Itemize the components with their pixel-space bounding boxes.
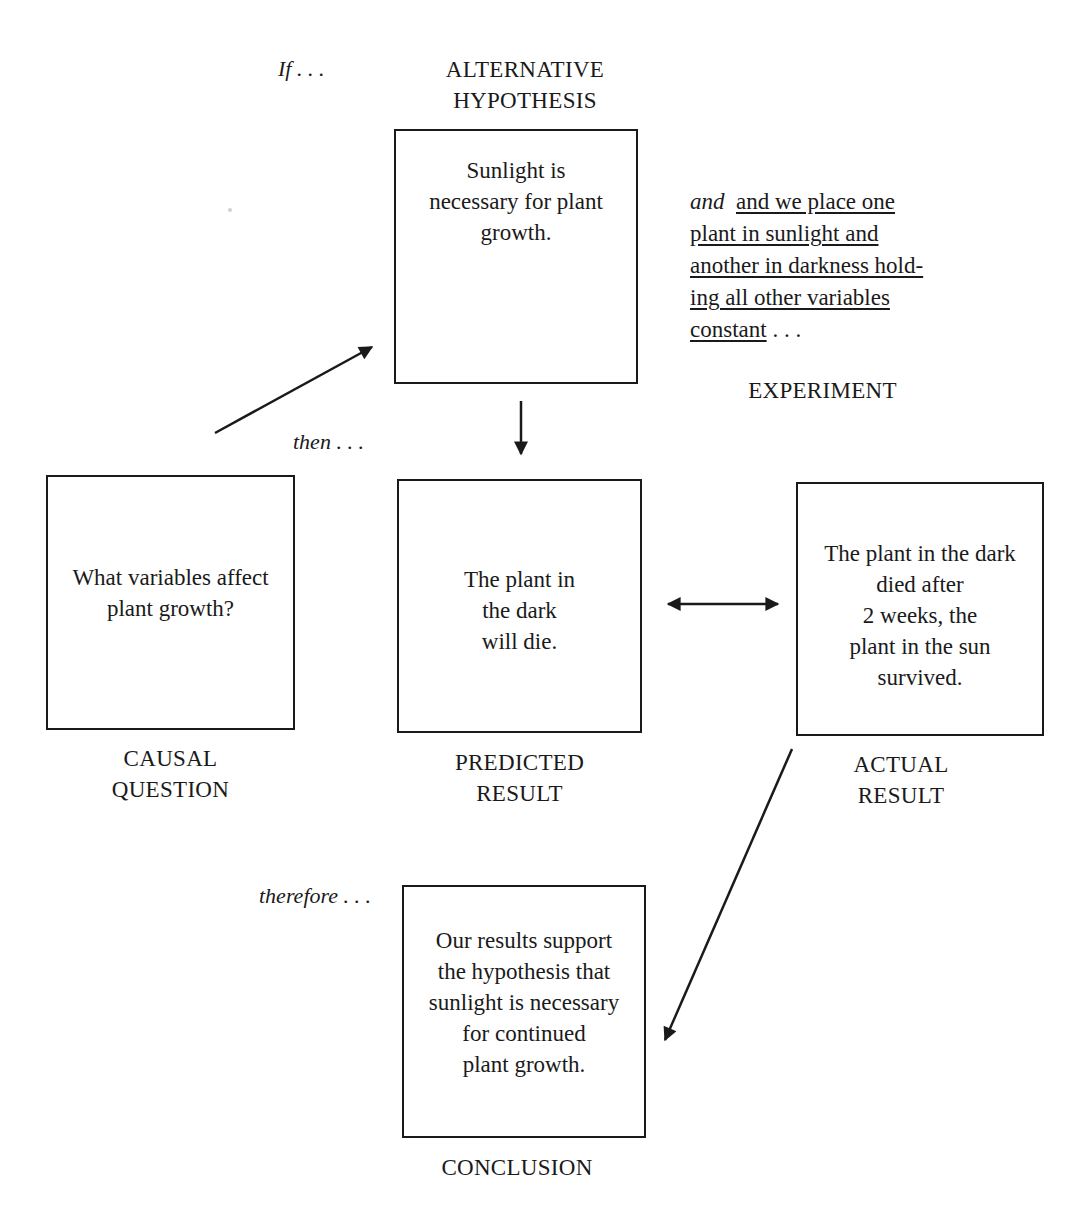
text-line: The plant in the dark <box>798 538 1042 569</box>
arrow-question-to-hypothesis <box>215 347 372 433</box>
text-line: for continued <box>404 1018 644 1049</box>
node-hypothesis: Sunlight is necessary for plant growth. <box>394 129 638 384</box>
text-line: What variables affect <box>48 562 293 593</box>
connector-if: If . . . <box>278 56 324 82</box>
text-line: plant growth? <box>48 593 293 624</box>
caption-hypothesis: ALTERNATIVE HYPOTHESIS <box>380 54 670 116</box>
exp-line: constant . . . <box>690 314 990 346</box>
caption-actual-result: ACTUAL RESULT <box>796 749 1006 811</box>
caption-line: RESULT <box>796 780 1006 811</box>
text-line: Our results support <box>404 925 644 956</box>
exp-line-text: plant in sunlight and <box>690 221 878 246</box>
node-predicted-result: The plant in the dark will die. <box>397 479 642 733</box>
node-text: The plant in the dark died after 2 weeks… <box>798 538 1042 693</box>
caption-line: ALTERNATIVE <box>380 54 670 85</box>
node-text: Our results support the hypothesis that … <box>404 925 644 1080</box>
text-line: 2 weeks, the <box>798 600 1042 631</box>
experiment-text: and and we place one plant in sunlight a… <box>690 186 990 346</box>
exp-line: another in darkness hold- <box>690 250 990 282</box>
caption-causal-question: CAUSAL QUESTION <box>46 743 295 805</box>
node-actual-result: The plant in the dark died after 2 weeks… <box>796 482 1044 736</box>
text-line: sunlight is necessary <box>404 987 644 1018</box>
text-line: the hypothesis that <box>404 956 644 987</box>
node-text: Sunlight is necessary for plant growth. <box>396 155 636 248</box>
exp-line: ing all other variables <box>690 282 990 314</box>
speck <box>228 208 232 212</box>
exp-line-text: ing all other variables <box>690 285 890 310</box>
text-line: plant growth. <box>404 1049 644 1080</box>
text-line: plant in the sun <box>798 631 1042 662</box>
caption-line: QUESTION <box>46 774 295 805</box>
connector-and: and <box>690 189 725 214</box>
connector-therefore: therefore . . . <box>259 883 371 909</box>
caption-line: PREDICTED <box>397 747 642 778</box>
node-text: The plant in the dark will die. <box>399 564 640 657</box>
node-causal-question: What variables affect plant growth? <box>46 475 295 730</box>
text-line: died after <box>798 569 1042 600</box>
arrow-actual-to-conclusion <box>665 749 792 1040</box>
text-line: survived. <box>798 662 1042 693</box>
exp-ellipsis: . . . <box>772 317 801 342</box>
text-line: The plant in <box>399 564 640 595</box>
text-line: the dark <box>399 595 640 626</box>
caption-line: CAUSAL <box>46 743 295 774</box>
text-line: Sunlight is <box>396 155 636 186</box>
exp-line: and and we place one <box>690 186 990 218</box>
node-text: What variables affect plant growth? <box>48 562 293 624</box>
caption-line: HYPOTHESIS <box>380 85 670 116</box>
exp-line-text: another in darkness hold- <box>690 253 923 278</box>
text-line: growth. <box>396 217 636 248</box>
caption-line: ACTUAL <box>796 749 1006 780</box>
connector-then: then . . . <box>293 429 364 455</box>
caption-experiment: EXPERIMENT <box>720 375 925 406</box>
node-conclusion: Our results support the hypothesis that … <box>402 885 646 1138</box>
text-line: necessary for plant <box>396 186 636 217</box>
caption-conclusion: CONCLUSION <box>402 1152 632 1183</box>
exp-line-text: constant <box>690 317 767 342</box>
caption-line: RESULT <box>397 778 642 809</box>
exp-line: plant in sunlight and <box>690 218 990 250</box>
text-line: will die. <box>399 626 640 657</box>
caption-predicted-result: PREDICTED RESULT <box>397 747 642 809</box>
exp-line-text: and we place one <box>736 189 895 214</box>
